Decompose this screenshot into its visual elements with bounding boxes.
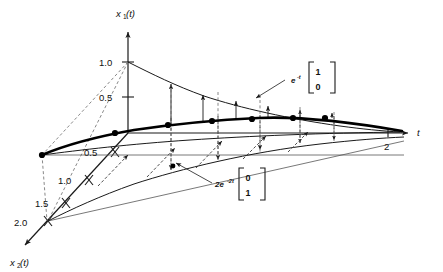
x1-tick-label-2: 0.5 [99,92,112,103]
sample-marker [322,115,328,121]
sample-station-connectors [171,84,334,170]
t-tick-label-2: 2 [384,141,389,152]
annotation-upper-envelope: e -t 1 0 [291,62,335,93]
sample-marker [112,130,118,136]
x2-axis-label-main: x [9,257,16,268]
sample-marker [209,118,215,124]
x2-tick-label-0.5: 0.5 [84,147,97,158]
construction-lines [42,62,404,221]
sample-marker [39,152,45,158]
leader-lower-envelope [176,163,212,183]
x2-axis-label-paren: (t) [20,257,29,268]
proj-baseplane-edge [48,141,404,221]
sample-marker [165,122,171,128]
annotation-lower-base: 2e [214,180,224,189]
x2-tick-1.0 [85,175,93,185]
vector-upper-row2: 0 [315,82,320,92]
proj-initial-origin [48,62,128,221]
x1-axis-label: x 1 (t) [115,8,135,20]
sample-marker [249,116,255,122]
baseplane-marker [171,164,176,169]
envelope-curves [42,62,404,221]
sample-marker [290,115,296,121]
x2-tick-0.5 [111,147,119,157]
x1-tick-label-1: 1.0 [99,57,112,68]
phase-trajectory-figure: x 1 (t) x 2 (t) t 1.0 0.5 2 0.5 1.0 1.5 … [0,0,443,272]
t-axis-label: t [417,127,420,138]
vector-upper-row1: 1 [315,67,320,77]
vector-lower-row2: 1 [245,188,250,198]
annotation-lower-envelope: 2e -2t 0 1 [214,168,265,200]
x2-tick-label-2.0: 2.0 [14,217,27,228]
curve-2exp-neg-2t [48,137,404,221]
x1-axis-label-paren: (t) [126,8,135,19]
proj-drop-t0 [42,155,47,221]
curve-exp-neg-t [128,62,400,132]
leader-upper-envelope [256,80,285,98]
annotation-lower-exponent: -2t [227,178,235,184]
x2-tick-label-1.0: 1.0 [58,175,71,186]
x1-axis-label-main: x [115,8,122,19]
annotation-upper-exponent: -t [297,74,302,80]
vector-lower-row1: 0 [245,173,250,183]
x2-axis-label: x 2 (t) [9,257,29,269]
vector-bracket-upper: 1 0 [309,62,335,93]
x2-tick-label-1.5: 1.5 [35,198,48,209]
annotation-upper-base: e [291,76,296,85]
